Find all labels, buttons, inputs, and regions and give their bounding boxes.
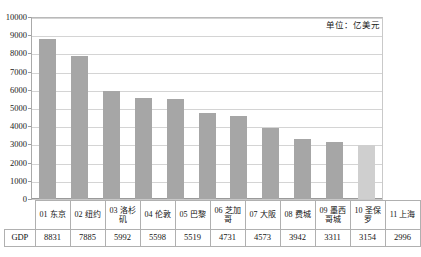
table-cell-value: 5598 [140,230,175,247]
bar [199,113,216,199]
y-axis-tick-label: 1000 [0,177,27,186]
table-cell-category: 08 费城 [280,201,315,230]
table-cell-value: 4731 [210,230,245,247]
y-axis-tick-label: 10000 [0,13,27,22]
y-axis-tick-label: 3000 [0,140,27,149]
y-axis-tick-mark [28,72,31,73]
y-axis-tick-label: 9000 [0,31,27,40]
bar [135,98,152,199]
y-axis-tick-mark [28,181,31,182]
table-row-header-gdp: GDP [5,230,36,247]
y-axis-tick-label: 2000 [0,159,27,168]
table-cell-category: 07 大阪 [245,201,280,230]
table-cell-category: 01 东京 [35,201,70,230]
bar [103,91,120,199]
y-axis-tick-label: 5000 [0,104,27,113]
table-row-values: GDP 883178855992559855194731457339423311… [5,230,421,247]
table-cell-value: 5519 [175,230,210,247]
y-axis-tick-mark [28,17,31,18]
bar [358,145,375,199]
bar [326,142,343,199]
table-cell-value: 3154 [350,230,385,247]
data-table: 01 东京02 纽约03 洛杉矶04 伦敦05 巴黎06 芝加哥07 大阪08 … [4,200,421,247]
table-cell-category: 02 纽约 [70,201,105,230]
y-axis-tick-mark [28,144,31,145]
table-row-categories: 01 东京02 纽约03 洛杉矶04 伦敦05 巴黎06 芝加哥07 大阪08 … [5,201,421,230]
table-cell-category: 06 芝加哥 [210,201,245,230]
table-cell-value: 5992 [105,230,140,247]
bar [262,128,279,199]
table-cell-category: 05 巴黎 [175,201,210,230]
y-axis-tick-label: 8000 [0,49,27,58]
table-cell-value: 3311 [315,230,350,247]
table-cell-value: 7885 [70,230,105,247]
bar [294,139,311,199]
y-axis-tick-mark [28,53,31,54]
y-axis-tick-mark [28,108,31,109]
table-cell-value: 8831 [35,230,70,247]
table-cell-value: 3942 [280,230,315,247]
table-cell-category: 11 上海 [385,201,420,230]
table-cell-category: 04 伦敦 [140,201,175,230]
y-axis-tick-label: 7000 [0,68,27,77]
table-cell-category: 03 洛杉矶 [105,201,140,230]
y-axis-tick-mark [28,90,31,91]
y-axis-tick-mark [28,126,31,127]
bar [167,99,184,199]
y-axis-tick-mark [28,35,31,36]
y-axis-tick-label: 4000 [0,122,27,131]
y-axis-tick-mark [28,163,31,164]
table-cell-value: 4573 [245,230,280,247]
table-corner-cell [5,201,36,230]
bar [230,116,247,199]
bar [39,39,56,199]
bar [71,56,88,199]
table-cell-value: 2996 [385,230,420,247]
table-cell-category: 10 圣保罗 [350,201,385,230]
table-cell-category: 09 墨西哥城 [315,201,350,230]
bar-series [32,18,382,199]
y-axis-tick-label: 6000 [0,86,27,95]
